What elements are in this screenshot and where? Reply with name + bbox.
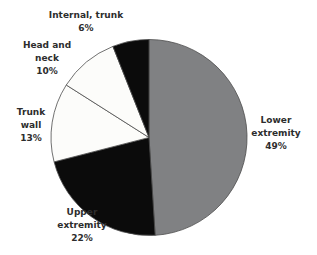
pie-label-upper-extremity: Upper extremity 22% (57, 206, 106, 245)
pie-label-head-and-neck: Head and neck 10% (23, 39, 71, 78)
pie-label-value: 6% (49, 22, 123, 35)
pie-label-line: neck (23, 52, 71, 65)
pie-label-line: Trunk (17, 106, 45, 119)
pie-label-value: 49% (251, 140, 300, 153)
pie-label-line: extremity (251, 127, 300, 140)
pie-label-lower-extremity: Lower extremity 49% (251, 114, 300, 153)
pie-label-trunk-wall: Trunk wall 13% (17, 106, 45, 145)
pie-label-line: extremity (57, 219, 106, 232)
pie-label-internal-trunk: Internal, trunk 6% (49, 9, 123, 35)
pie-label-value: 13% (17, 132, 45, 145)
pie-label-value: 22% (57, 232, 106, 245)
pie-label-line: wall (17, 119, 45, 132)
pie-label-line: Internal, trunk (49, 9, 123, 22)
pie-label-line: Head and (23, 39, 71, 52)
pie-label-value: 10% (23, 65, 71, 78)
pie-label-line: Upper (57, 206, 106, 219)
pie-label-line: Lower (251, 114, 300, 127)
pie-chart-figure: Lower extremity 49% Upper extremity 22% … (0, 0, 317, 255)
pie-slice-lower-extremity (149, 39, 247, 235)
